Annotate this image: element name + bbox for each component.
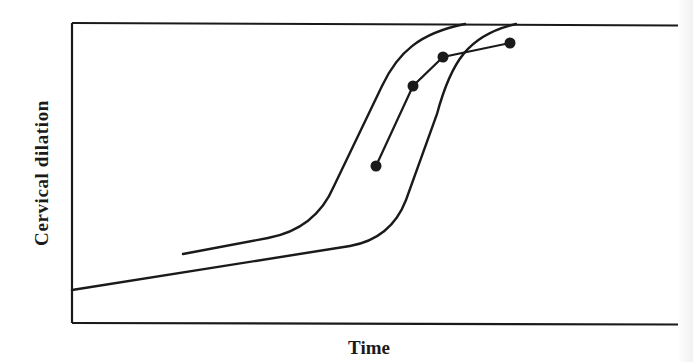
lower-curve — [72, 24, 516, 290]
data-point-marker — [371, 161, 382, 172]
upper-curve — [183, 24, 465, 254]
top-boundary-line — [72, 23, 678, 26]
data-point-marker — [408, 81, 419, 92]
x-axis-label: Time — [348, 337, 390, 359]
y-axis-label: Cervical dilation — [31, 100, 53, 246]
chart-container: Cervical dilation Time — [0, 0, 693, 362]
plot-area — [0, 0, 693, 362]
x-axis-line — [72, 323, 678, 325]
data-point-marker — [438, 52, 449, 63]
data-point-marker — [505, 38, 516, 49]
